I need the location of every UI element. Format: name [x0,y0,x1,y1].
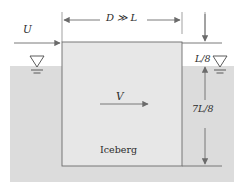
dimension-label-freeboard: L/8 [195,54,211,64]
velocity-label-iceberg: V [116,91,124,102]
free-surface-triangle-icon-right [213,56,227,73]
dimension-label-draft: 7L/8 [192,104,214,114]
dimension-label-width: D ≫ L [106,13,137,23]
velocity-label-freestream: U [23,24,32,35]
water-region-left [10,66,62,182]
water-region-right [182,66,234,182]
body-label-iceberg: Iceberg [100,145,137,155]
water-region-below [62,166,182,182]
free-surface-triangle-icon-left [30,56,44,73]
iceberg-diagram: D ≫ L U V L/8 7L/8 Iceberg [0,0,245,193]
